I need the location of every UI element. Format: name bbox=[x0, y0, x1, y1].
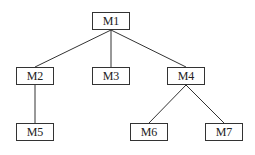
node-m3: M3 bbox=[92, 67, 130, 85]
edge-m1-m4 bbox=[111, 30, 186, 67]
edge-m1-m2 bbox=[35, 30, 111, 67]
node-label: M1 bbox=[103, 14, 120, 29]
node-m4: M4 bbox=[167, 67, 205, 85]
node-label: M7 bbox=[216, 125, 233, 140]
node-label: M2 bbox=[27, 69, 44, 84]
module-tree-diagram: M1 M2 M3 M4 M5 M6 M7 bbox=[0, 0, 255, 155]
node-label: M6 bbox=[141, 125, 158, 140]
node-m7: M7 bbox=[205, 123, 243, 141]
edge-m4-m7 bbox=[186, 85, 224, 123]
node-label: M3 bbox=[103, 69, 120, 84]
node-m2: M2 bbox=[16, 67, 54, 85]
edge-m4-m6 bbox=[149, 85, 186, 123]
node-m6: M6 bbox=[130, 123, 168, 141]
node-m5: M5 bbox=[16, 123, 54, 141]
node-m1: M1 bbox=[92, 12, 130, 30]
node-label: M5 bbox=[27, 125, 44, 140]
node-label: M4 bbox=[178, 69, 195, 84]
